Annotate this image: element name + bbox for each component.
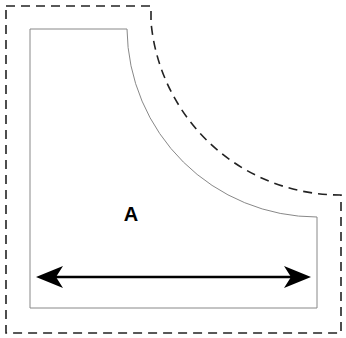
background: [0, 0, 346, 338]
region-label: A: [124, 203, 138, 225]
diagram-canvas: A: [0, 0, 346, 338]
